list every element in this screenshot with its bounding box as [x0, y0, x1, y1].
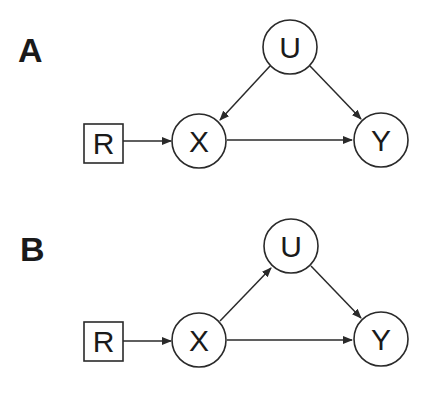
node-y-label: Y	[371, 124, 391, 157]
node-r: R	[84, 124, 123, 163]
node-u: U	[263, 20, 317, 74]
node-y: Y	[354, 312, 408, 366]
node-u: U	[264, 219, 318, 273]
node-u-label: U	[280, 230, 302, 263]
edge-u-y	[311, 266, 361, 318]
causal-diagrams: A R X U Y B R	[0, 0, 430, 398]
node-x-label: X	[189, 125, 209, 158]
panel-a: A R X U Y	[18, 20, 408, 168]
edge-u-x	[220, 66, 270, 120]
node-r-label: R	[93, 127, 115, 160]
panel-b: B R X U Y	[20, 219, 408, 367]
edge-u-y	[310, 66, 361, 119]
node-u-label: U	[279, 31, 301, 64]
node-x: X	[172, 313, 226, 367]
node-y: Y	[354, 113, 408, 167]
node-x-label: X	[189, 324, 209, 357]
panel-a-label: A	[18, 31, 43, 69]
panel-b-label: B	[20, 230, 45, 268]
node-r-label: R	[93, 325, 115, 358]
edge-x-u	[220, 268, 271, 321]
node-x: X	[172, 114, 226, 168]
node-r: R	[84, 322, 123, 361]
node-y-label: Y	[371, 323, 391, 356]
